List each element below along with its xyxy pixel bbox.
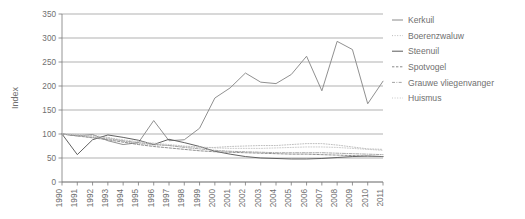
x-tick-label: 2001 [223,189,232,208]
x-tick-label: 1993 [101,189,110,208]
y-tick-label: 100 [42,130,56,139]
series-line-huismus [62,134,383,150]
y-axis [59,14,63,182]
x-tick-label: 2002 [238,189,247,208]
legend-label-boerenzwaluw[interactable]: Boerenzwaluw [408,31,465,41]
gridlines [62,14,383,182]
legend-label-spotvogel[interactable]: Spotvogel [408,62,446,72]
y-tick-label: 250 [42,58,56,67]
x-axis [62,182,383,186]
x-tick-label: 2009 [345,189,354,208]
y-axis-title: Index [10,86,20,109]
x-tick-label: 1992 [86,189,95,208]
y-tick-label: 200 [42,82,56,91]
x-tick-labels: 1990199119921993199419951996199719981999… [55,189,385,208]
legend: KerkuilBoerenzwaluwSteenuilSpotvogelGrau… [392,15,494,103]
data-series-group [62,41,383,159]
x-tick-label: 1999 [193,189,202,208]
y-tick-labels: 050100150200250300350 [42,10,56,187]
y-tick-label: 350 [42,10,56,19]
series-line-kerkuil [62,41,383,144]
x-tick-label: 2000 [208,189,217,208]
x-tick-label: 1990 [55,189,64,208]
x-tick-label: 1997 [162,189,171,208]
legend-label-kerkuil[interactable]: Kerkuil [408,15,434,25]
y-tick-label: 0 [51,178,56,187]
x-tick-label: 1998 [177,189,186,208]
y-tick-label: 150 [42,106,56,115]
x-tick-label: 2007 [315,189,324,208]
chart-figure: 050100150200250300350 199019911992199319… [0,0,525,219]
y-tick-label: 50 [47,154,57,163]
x-tick-label: 2003 [254,189,263,208]
x-tick-label: 2010 [361,189,370,208]
x-tick-label: 1994 [116,189,125,208]
series-line-grauwe-vliegenvanger [62,134,383,155]
y-tick-label: 300 [42,34,56,43]
x-tick-label: 1991 [70,189,79,208]
x-tick-label: 2005 [284,189,293,208]
line-chart-svg: 050100150200250300350 199019911992199319… [0,0,525,219]
x-tick-label: 2008 [330,189,339,208]
x-tick-label: 2004 [269,189,278,208]
legend-label-huismus[interactable]: Huismus [408,93,441,103]
x-tick-label: 1996 [147,189,156,208]
x-tick-label: 2006 [300,189,309,208]
legend-label-steenuil[interactable]: Steenuil [408,46,439,56]
x-tick-label: 2011 [376,189,385,207]
legend-label-grauwe-vliegenvanger[interactable]: Grauwe vliegenvanger [408,78,494,88]
x-tick-label: 1995 [131,189,140,208]
